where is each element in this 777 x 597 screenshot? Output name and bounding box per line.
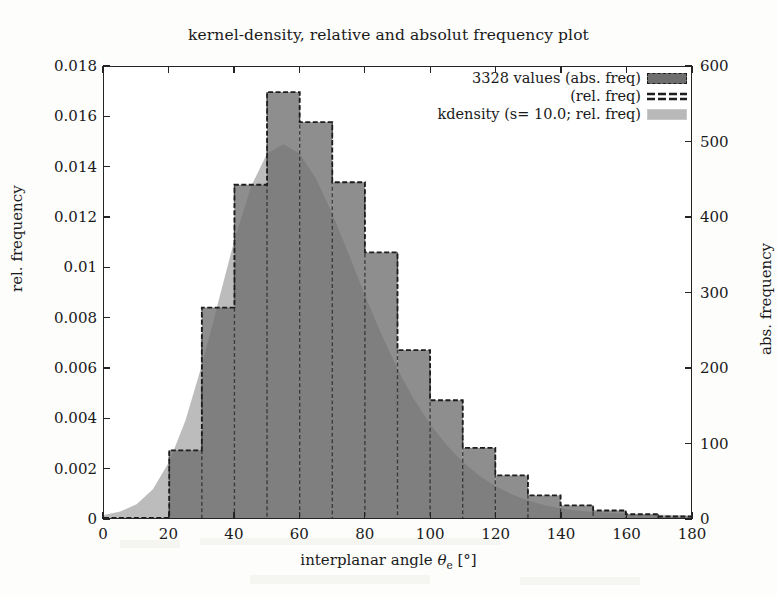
x-tick-mark-top xyxy=(168,66,169,73)
y-right-tick-mark xyxy=(685,518,692,519)
y-left-tick-mark xyxy=(103,267,110,268)
x-tick-label-160: 160 xyxy=(612,525,641,543)
legend-swatch-kdensity-icon xyxy=(647,109,687,120)
legend: 3328 values (abs. freq) (rel. freq) kden… xyxy=(425,67,687,123)
y-left-tick-mark xyxy=(103,65,110,66)
chart-title: kernel-density, relative and absolut fre… xyxy=(0,26,777,44)
y-right-tick-mark xyxy=(685,141,692,142)
x-tick-mark xyxy=(168,512,169,519)
x-tick-mark-top xyxy=(691,66,692,73)
x-tick-mark-top xyxy=(626,66,627,73)
y-left-tick-label-0.004: 0.004 xyxy=(11,409,97,427)
y-right-tick-mark xyxy=(685,292,692,293)
y-left-tick-label-0.018: 0.018 xyxy=(11,57,97,75)
y-right-tick-label-400: 400 xyxy=(700,208,760,226)
x-tick-mark xyxy=(233,512,234,519)
x-tick-label-20: 20 xyxy=(159,525,178,543)
y-right-tick-label-0: 0 xyxy=(700,510,760,528)
histogram-bar xyxy=(267,92,300,518)
y-right-tick-mark xyxy=(685,65,692,66)
histogram-bars xyxy=(104,67,691,518)
x-tick-mark xyxy=(495,512,496,519)
y-right-tick-mark xyxy=(685,443,692,444)
y-right-tick-mark xyxy=(685,367,692,368)
legend-label-rel: (rel. freq) xyxy=(570,88,641,104)
x-tick-mark xyxy=(430,512,431,519)
y-right-tick-label-300: 300 xyxy=(700,284,760,302)
x-tick-mark-top xyxy=(233,66,234,73)
scan-artifact xyxy=(520,577,640,585)
legend-entry-kdensity: kdensity (s= 10.0; rel. freq) xyxy=(437,105,687,123)
dashed-line-icon xyxy=(647,91,687,102)
y-left-tick-mark xyxy=(103,216,110,217)
histogram-bar xyxy=(202,308,235,518)
scan-artifact xyxy=(250,575,430,584)
x-tick-mark-top xyxy=(364,66,365,73)
x-tick-label-140: 140 xyxy=(547,525,576,543)
y-left-tick-label-0.016: 0.016 xyxy=(11,107,97,125)
y-right-tick-label-100: 100 xyxy=(700,435,760,453)
x-tick-mark xyxy=(626,512,627,519)
y-left-tick-label-0.006: 0.006 xyxy=(11,359,97,377)
x-tick-mark-top xyxy=(430,66,431,73)
y-right-tick-mark xyxy=(685,216,692,217)
histogram-bar xyxy=(398,350,431,518)
histogram-bar xyxy=(430,400,463,518)
x-tick-label-80: 80 xyxy=(355,525,374,543)
y-left-tick-mark xyxy=(103,317,110,318)
legend-entry-rel: (rel. freq) xyxy=(570,87,687,105)
plot-area xyxy=(103,66,692,519)
histogram-bar xyxy=(561,505,594,518)
histogram-bar xyxy=(169,450,202,518)
y-left-tick-label-0.012: 0.012 xyxy=(11,208,97,226)
x-tick-mark-top xyxy=(560,66,561,73)
y-left-tick-mark xyxy=(103,468,110,469)
legend-entry-abs: 3328 values (abs. freq) xyxy=(472,69,687,87)
histogram-bar xyxy=(332,182,365,518)
histogram-bar xyxy=(300,122,333,518)
y-right-tick-label-600: 600 xyxy=(700,57,760,75)
legend-swatch-rel-freq-icon xyxy=(647,91,687,102)
x-tick-mark xyxy=(299,512,300,519)
x-tick-mark-top xyxy=(299,66,300,73)
x-tick-mark xyxy=(560,512,561,519)
histogram-bar xyxy=(528,495,561,518)
legend-label-kdensity: kdensity (s= 10.0; rel. freq) xyxy=(437,106,641,122)
y-left-tick-mark xyxy=(103,116,110,117)
x-axis-title-suffix: [°] xyxy=(453,551,477,569)
x-tick-mark-top xyxy=(495,66,496,73)
x-tick-label-100: 100 xyxy=(416,525,445,543)
y-left-tick-label-0.008: 0.008 xyxy=(11,309,97,327)
legend-swatch-abs-freq-icon xyxy=(647,73,687,84)
histogram-bar xyxy=(463,448,496,518)
y-right-tick-label-200: 200 xyxy=(700,359,760,377)
y-left-tick-mark xyxy=(103,518,110,519)
x-tick-label-0: 0 xyxy=(98,525,108,543)
x-tick-mark xyxy=(364,512,365,519)
histogram-bar xyxy=(234,185,267,518)
y-left-tick-label-0.01: 0.01 xyxy=(11,258,97,276)
y-left-tick-label-0.014: 0.014 xyxy=(11,158,97,176)
chart-page: kernel-density, relative and absolut fre… xyxy=(0,0,777,597)
scan-artifact xyxy=(200,538,500,545)
histogram-bar xyxy=(593,510,626,518)
y-left-tick-mark xyxy=(103,418,110,419)
histogram-bar xyxy=(365,252,398,518)
x-tick-mark-top xyxy=(102,66,103,73)
y-left-tick-mark xyxy=(103,166,110,167)
y-left-tick-label-0.002: 0.002 xyxy=(11,460,97,478)
x-tick-label-120: 120 xyxy=(481,525,510,543)
x-axis-title-prefix: interplanar angle xyxy=(300,551,437,569)
histogram-svg xyxy=(104,67,691,518)
y-right-tick-label-500: 500 xyxy=(700,133,760,151)
y-left-tick-label-0: 0 xyxy=(11,510,97,528)
x-tick-label-40: 40 xyxy=(224,525,243,543)
x-tick-label-60: 60 xyxy=(290,525,309,543)
x-axis-title: interplanar angle θe [°] xyxy=(0,551,777,571)
legend-label-abs: 3328 values (abs. freq) xyxy=(472,70,641,86)
histogram-bar xyxy=(495,475,528,518)
y-left-tick-mark xyxy=(103,367,110,368)
